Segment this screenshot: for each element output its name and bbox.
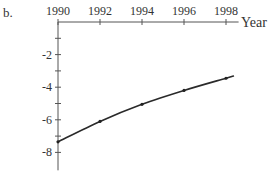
data-point bbox=[182, 89, 185, 92]
data-curve bbox=[58, 76, 234, 142]
y-tick-label: -4 bbox=[42, 80, 52, 94]
data-point bbox=[98, 120, 101, 123]
x-tick-label: 1990 bbox=[46, 4, 70, 18]
x-axis-title: Year bbox=[241, 15, 267, 30]
x-tick-label: 1998 bbox=[214, 4, 238, 18]
x-tick-label: 1996 bbox=[172, 4, 196, 18]
line-chart: 19901992199419961998-2-4-6-8 Year bbox=[0, 0, 269, 174]
data-point bbox=[224, 77, 227, 80]
data-point bbox=[140, 103, 143, 106]
x-tick-label: 1994 bbox=[130, 4, 154, 18]
axes bbox=[58, 22, 239, 170]
y-tick-label: -2 bbox=[42, 48, 52, 62]
tick-labels: 19901992199419961998-2-4-6-8 bbox=[42, 4, 238, 159]
y-tick-label: -6 bbox=[42, 113, 52, 127]
data-markers bbox=[56, 77, 227, 144]
data-point bbox=[56, 140, 59, 143]
x-tick-label: 1992 bbox=[88, 4, 112, 18]
y-tick-label: -8 bbox=[42, 145, 52, 159]
